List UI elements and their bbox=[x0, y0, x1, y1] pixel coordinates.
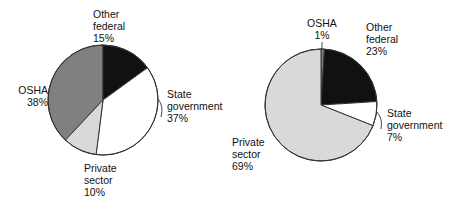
left-label-private-sector-line2: sector bbox=[84, 175, 117, 187]
right-label-osha: OSHA 1% bbox=[296, 18, 348, 42]
left-label-state-government-line2: government bbox=[167, 101, 222, 113]
right-label-private-sector-pct: 69% bbox=[232, 161, 265, 173]
left-pie-chart bbox=[48, 45, 162, 155]
left-label-other-federal-pct: 15% bbox=[93, 33, 125, 45]
left-label-private-sector: Private sector 10% bbox=[84, 163, 117, 198]
left-label-other-federal: Other federal 15% bbox=[93, 9, 125, 44]
left-label-osha-pct: 38% bbox=[0, 97, 48, 109]
left-label-state-government: State government 37% bbox=[167, 89, 222, 124]
right-label-osha-pct: 1% bbox=[296, 30, 348, 42]
left-label-private-sector-pct: 10% bbox=[84, 187, 117, 199]
right-slice-other-federal[interactable] bbox=[321, 49, 377, 105]
right-pie-chart bbox=[265, 42, 382, 161]
right-leader-line-state-government bbox=[377, 112, 382, 129]
right-label-state-government-pct: 7% bbox=[387, 132, 442, 144]
right-label-state-government: State government 7% bbox=[387, 108, 442, 143]
right-label-other-federal: Other federal 23% bbox=[366, 22, 398, 57]
left-label-state-government-pct: 37% bbox=[167, 113, 222, 125]
pie-chart-figure: Other federal 15% OSHA 38% State governm… bbox=[0, 0, 462, 214]
right-label-other-federal-pct: 23% bbox=[366, 46, 398, 58]
left-label-other-federal-line2: federal bbox=[93, 21, 125, 33]
right-label-other-federal-line2: federal bbox=[366, 34, 398, 46]
left-leader-line-state-government bbox=[158, 99, 162, 117]
right-label-state-government-line2: government bbox=[387, 120, 442, 132]
right-label-private-sector-line2: sector bbox=[232, 149, 265, 161]
right-label-private-sector: Private sector 69% bbox=[232, 137, 265, 172]
left-label-osha: OSHA 38% bbox=[0, 85, 48, 109]
